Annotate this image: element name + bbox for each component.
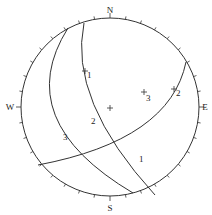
- tick-mark: [19, 91, 22, 92]
- tick-mark: [125, 195, 126, 198]
- direction-label-e: E: [202, 102, 208, 112]
- tick-mark: [94, 195, 95, 198]
- pole-label-3: 3: [146, 93, 151, 103]
- tick-mark: [40, 48, 42, 50]
- great-circle-3: [49, 28, 133, 193]
- tick-mark: [30, 61, 33, 63]
- tick-mark: [155, 27, 157, 30]
- tick-mark: [64, 27, 66, 30]
- tick-mark: [125, 16, 126, 19]
- tick-mark: [24, 76, 27, 77]
- tick-mark: [194, 137, 197, 138]
- tick-mark: [79, 21, 80, 24]
- stereonet-svg: NESW123123: [0, 0, 212, 215]
- great-circle-label-3: 3: [63, 132, 68, 142]
- tick-mark: [30, 152, 33, 154]
- tick-mark: [155, 184, 157, 187]
- great-circle-2: [38, 62, 186, 165]
- pole-label-1: 1: [87, 70, 92, 80]
- tick-mark: [140, 191, 141, 194]
- tick-mark: [51, 37, 53, 39]
- tick-mark: [178, 48, 180, 50]
- direction-label-n: N: [107, 5, 114, 15]
- stereonet-diagram: NESW123123: [0, 0, 212, 215]
- direction-label-s: S: [107, 203, 112, 213]
- tick-mark: [140, 21, 141, 24]
- tick-mark: [178, 164, 180, 166]
- tick-mark: [51, 175, 53, 177]
- great-circle-label-2: 2: [91, 116, 96, 126]
- tick-mark: [79, 191, 80, 194]
- pole-label-2: 2: [176, 88, 181, 98]
- tick-mark: [198, 122, 201, 123]
- tick-mark: [198, 91, 201, 92]
- tick-mark: [187, 61, 190, 63]
- direction-label-w: W: [6, 102, 15, 112]
- tick-mark: [19, 122, 22, 123]
- tick-mark: [94, 16, 95, 19]
- tick-mark: [167, 37, 169, 39]
- great-circle-label-1: 1: [139, 154, 144, 164]
- tick-mark: [167, 175, 169, 177]
- tick-mark: [194, 76, 197, 77]
- tick-mark: [187, 152, 190, 154]
- great-circle-1: [82, 23, 155, 195]
- tick-mark: [24, 137, 27, 138]
- tick-mark: [64, 184, 66, 187]
- pole-cross-icon: [107, 105, 113, 111]
